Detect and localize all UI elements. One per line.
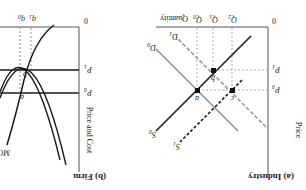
point-c-label: c: [230, 94, 234, 103]
firm-p0-label: P0: [84, 87, 93, 97]
industry-p0-label: P0: [272, 84, 281, 94]
firm-q0-label: q0: [18, 14, 25, 24]
point-b-label: b: [211, 74, 215, 83]
point-b: [211, 68, 216, 73]
firm-title: (b) Firm: [73, 172, 106, 182]
firm-point-a-label: a: [20, 93, 24, 102]
q2-label: Q2: [228, 14, 237, 24]
atc-curve-2: [0, 68, 60, 160]
industry-panel: (a) Industry 0 Price Quantity P0 P1 Q0 Q…: [147, 14, 303, 182]
s0-label: S0: [149, 129, 156, 139]
d0-label: D0: [147, 42, 157, 52]
point-c: [230, 88, 235, 93]
industry-origin: 0: [272, 16, 276, 25]
s1-label: S1: [173, 141, 180, 151]
firm-panel: (b) Firm 0 Price and Cost P0 P1 q1 q0 MC…: [0, 14, 106, 182]
industry-y-label: Price: [294, 122, 303, 139]
industry-x-label: Quantity: [160, 14, 188, 23]
industry-p1-label: P1: [272, 64, 281, 74]
q0-label: Q0: [193, 14, 202, 24]
point-a: [195, 88, 200, 93]
industry-title: (a) Industry: [247, 172, 294, 182]
firm-point-b-label: b: [23, 70, 27, 79]
firm-p1-label: P1: [84, 64, 93, 74]
firm-y-label: Price and Cost: [85, 107, 94, 154]
firm-q1-label: q1: [29, 14, 36, 24]
supply-curve-s0: [156, 36, 251, 131]
d1-label: D1: [169, 31, 179, 41]
industry-firm-supply-demand-figure: (a) Industry 0 Price Quantity P0 P1 Q0 Q…: [0, 0, 306, 190]
mc-curve: [7, 25, 54, 145]
point-a-label: a: [195, 94, 199, 103]
mc-label: MC: [0, 148, 11, 157]
q1-label: Q1: [209, 14, 218, 24]
firm-origin: 0: [84, 16, 88, 25]
